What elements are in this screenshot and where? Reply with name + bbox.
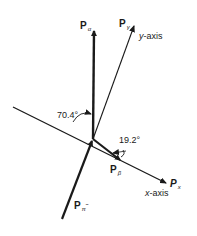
y-axis-line: [93, 26, 134, 139]
p-alpha-vector: [93, 31, 94, 139]
p-gamma-label: Pγ: [119, 19, 130, 30]
p-beta-vector: [93, 139, 120, 160]
y-axis-label: yy-axis-axis: [139, 32, 163, 41]
diagram-canvas: [0, 0, 197, 236]
angle-70-label: 70.4°: [57, 111, 78, 120]
px-label: Px: [170, 179, 181, 190]
p-alpha-label: Pα: [80, 21, 91, 32]
p-pi-minus-label: Pπ−: [74, 201, 89, 212]
angle-19-label: 19.2°: [119, 136, 140, 145]
x-axis-label: x-axis: [145, 189, 169, 198]
p-beta-label: Pβ: [110, 165, 121, 176]
